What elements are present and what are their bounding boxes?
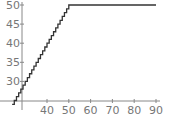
x-tick-label: 60 [84, 104, 98, 117]
y-tick-label: 40 [6, 37, 20, 50]
y-tick-label: 50 [6, 0, 20, 12]
y-tick-label: 45 [6, 18, 20, 31]
x-tick-label: 90 [149, 104, 163, 117]
axes [0, 2, 160, 110]
x-tick-label: 50 [62, 104, 76, 117]
tick-labels: 4050607080903035404550 [6, 0, 163, 117]
chart: 4050607080903035404550 [0, 0, 178, 117]
x-tick-label: 80 [127, 104, 141, 117]
y-tick-label: 30 [6, 75, 20, 88]
x-tick-label: 70 [105, 104, 119, 117]
step-series-line [12, 5, 156, 104]
x-tick-label: 40 [40, 104, 54, 117]
y-tick-label: 35 [6, 56, 20, 69]
